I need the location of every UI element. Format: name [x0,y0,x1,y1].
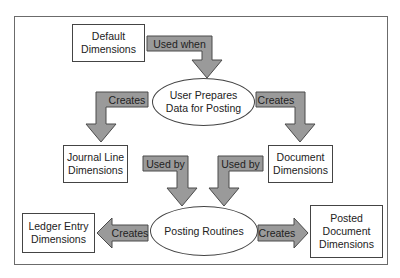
node-line: Journal Line [67,151,124,164]
node-line: Dimensions [68,164,123,177]
node-line: Ledger Entry [28,220,88,233]
document-dimensions-node: Document Dimensions [268,145,333,183]
used-by-document-label: Used by [218,156,263,171]
ledger-entry-dimensions-node: Ledger Entry Dimensions [22,213,95,253]
creates-ledger-label: Creates [110,225,150,241]
creates-journal-label: Creates [106,92,148,107]
posting-routines-node: Posting Routines [150,206,258,256]
node-line: Posting Routines [164,225,243,238]
node-line: User Prepares [170,89,238,102]
creates-document-label: Creates [256,92,296,107]
default-dimensions-node: Default Dimensions [72,24,145,62]
node-line: Dimensions [31,233,86,246]
node-line: Dimensions [319,238,374,251]
posted-document-dimensions-node: Posted Document Dimensions [310,205,383,258]
node-line: Default [92,30,125,43]
creates-posted-label: Creates [258,225,296,241]
used-by-journal-label: Used by [143,156,188,171]
node-line: Dimensions [273,164,328,177]
node-line: Dimensions [81,43,136,56]
used-when-label: Used when [147,36,212,51]
node-line: Posted [330,212,363,225]
user-prepares-node: User Prepares Data for Posting [152,78,255,126]
node-line: Data for Posting [166,102,241,115]
node-line: Document [323,225,371,238]
journal-line-dimensions-node: Journal Line Dimensions [63,145,128,183]
node-line: Document [277,151,325,164]
